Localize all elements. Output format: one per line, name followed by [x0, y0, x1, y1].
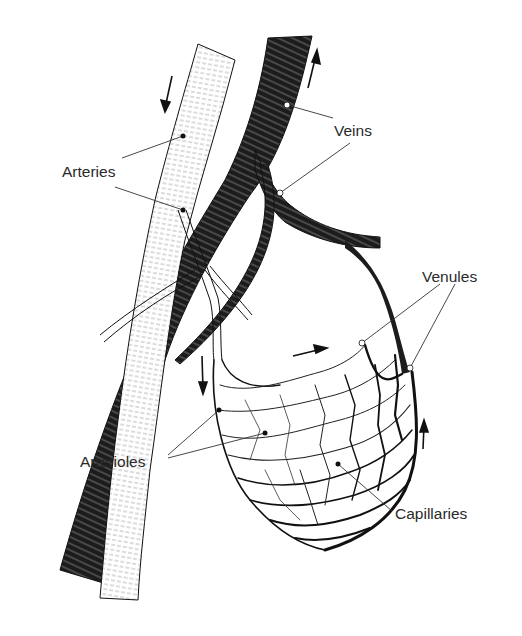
arrow-up-venule-icon	[420, 420, 428, 449]
label-arterioles: Arterioles	[80, 453, 146, 470]
label-veins: Veins	[334, 122, 372, 139]
arrow-down-artery-icon	[161, 76, 172, 112]
arrow-down-arteriole-icon	[199, 356, 207, 394]
label-arteries: Arteries	[62, 163, 116, 180]
arrow-up-vein-icon	[308, 50, 320, 88]
label-capillaries: Capillaries	[395, 505, 468, 522]
arrow-right-capillary-icon	[293, 345, 327, 356]
capillary-bed	[213, 345, 416, 550]
vessel-diagram: Arteries Veins Venules Arterioles Capill…	[0, 0, 522, 636]
label-venules: Venules	[422, 268, 477, 285]
